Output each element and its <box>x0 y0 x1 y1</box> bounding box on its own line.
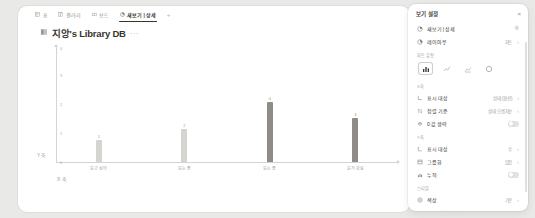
chart-type-area-button[interactable] <box>460 62 475 75</box>
bar-value-label: 3 <box>354 112 356 117</box>
view-tab-chart[interactable]: 새보기 | 상세 <box>119 7 157 22</box>
bar[interactable] <box>352 118 358 162</box>
chart-container: Y 축 X 축 0 1 2 3 4 1 읽고 싶어 2 <box>28 44 408 184</box>
view-settings-panel: 보기 설정 × 새보기 | 상세 레이아웃 차트 › <box>408 4 528 211</box>
book-icon <box>40 28 48 38</box>
section-label-x-axis: X축 <box>414 79 522 91</box>
chevron-right-icon: › <box>517 210 519 212</box>
chevron-right-icon: › <box>517 108 519 114</box>
board-icon <box>92 12 97 17</box>
chevron-right-icon: › <box>517 159 519 165</box>
close-icon[interactable]: × <box>517 11 521 17</box>
panel-row-label: 표시 대상 <box>427 145 504 152</box>
palette-icon <box>417 197 423 203</box>
section-label-chart-type: 차트 유형 <box>414 48 522 60</box>
view-tab-label: 새보기 | 상세 <box>127 11 155 18</box>
chart-type-line-button[interactable] <box>439 62 454 75</box>
group-icon <box>417 159 423 165</box>
chevron-right-icon: › <box>517 197 519 203</box>
x-axis-title: X 축 <box>57 175 66 182</box>
view-tab-bar: 표 갤러리 보드 새보기 | 상세 + <box>18 6 410 23</box>
bar-category-label: 읽고 싶어 <box>90 165 107 171</box>
x-axis-line <box>56 162 398 163</box>
panel-header: 보기 설정 × <box>408 4 528 22</box>
panel-row-label: 정렬 기준 <box>427 107 484 114</box>
chart-type-bar-button[interactable] <box>418 62 433 75</box>
panel-row-omit-zero[interactable]: 0 값 생략 <box>414 117 522 130</box>
document-card: 표 갤러리 보드 새보기 | 상세 + <box>18 6 410 212</box>
layout-icon <box>417 39 423 45</box>
view-tab-label: 표 <box>43 11 48 18</box>
view-tab-board[interactable]: 보드 <box>91 7 110 22</box>
bar[interactable] <box>96 140 102 162</box>
panel-row-label: 0 값 생략 <box>427 120 504 127</box>
bar-category-label: 읽기 완료 <box>347 165 364 171</box>
panel-row-y-display[interactable]: 표시 대상 수 › <box>414 142 522 155</box>
xaxis-icon <box>417 95 423 101</box>
bar-category-label: 읽는 중 <box>263 165 276 171</box>
bar-column[interactable]: 3 읽기 완료 <box>320 46 390 162</box>
brush-icon <box>417 210 423 212</box>
panel-scrollbar[interactable] <box>525 42 527 192</box>
chart-icon <box>120 12 125 17</box>
chart-bars: 1 읽고 싶어 2 읽는 중 4 읽는 중 <box>56 46 398 162</box>
panel-row-layout[interactable]: 레이아웃 차트 › <box>414 35 522 48</box>
view-tab-gallery[interactable]: 갤러리 <box>57 7 81 22</box>
view-tab-label: 갤러리 <box>66 11 81 18</box>
section-label-style: 스타일 <box>414 181 522 193</box>
bar-value-label: 4 <box>269 96 271 101</box>
panel-row-more-styling[interactable]: 스타일링 옵션 더 보기 › <box>414 206 522 211</box>
bar-value-label: 1 <box>98 134 100 139</box>
bar[interactable] <box>181 129 187 162</box>
chevron-right-icon: › <box>517 95 519 101</box>
stack-toggle[interactable] <box>508 172 519 178</box>
chart-type-donut-button[interactable] <box>481 62 496 75</box>
table-icon <box>35 12 40 17</box>
panel-row-label: 그룹화 <box>427 158 501 165</box>
chart-type-selector <box>414 60 522 79</box>
panel-row-value: 수 <box>508 146 512 152</box>
panel-row-value: 없음 <box>505 159 513 165</box>
panel-row-value: 상태 오름차순 <box>488 108 513 114</box>
omit-zero-toggle[interactable] <box>508 121 519 127</box>
y-axis-title: Y 축 <box>37 151 46 158</box>
screenshot-root: 표 갤러리 보드 새보기 | 상세 + <box>0 0 535 218</box>
bar-column[interactable]: 1 읽고 싶어 <box>64 46 134 162</box>
panel-row-x-sort[interactable]: 정렬 기준 상태 오름차순 › <box>414 104 522 117</box>
page-title: 지앙's Library DB <box>52 26 126 40</box>
bar-column[interactable]: 2 읽는 중 <box>149 46 219 162</box>
bar-column[interactable]: 4 읽는 중 <box>235 46 305 162</box>
bar[interactable] <box>267 102 273 162</box>
gallery-icon <box>58 12 63 17</box>
bar-value-label: 2 <box>183 123 185 128</box>
panel-title: 보기 설정 <box>416 10 438 18</box>
panel-row-value: 기본 <box>505 197 513 203</box>
view-tab-table[interactable]: 표 <box>34 7 48 22</box>
panel-row-x-display[interactable]: 표시 대상 상태 (옵션) › <box>414 91 522 104</box>
gear-icon[interactable] <box>514 25 520 32</box>
panel-body: 새보기 | 상세 레이아웃 차트 › 차트 유형 <box>408 22 528 211</box>
chart-icon <box>417 26 423 32</box>
bar-category-label: 읽는 중 <box>178 165 191 171</box>
panel-row-label: 색상 <box>427 196 501 203</box>
chart-plot-area: 0 1 2 3 4 1 읽고 싶어 2 읽는 중 <box>56 46 398 162</box>
yaxis-icon <box>417 146 423 152</box>
panel-row-current-view[interactable]: 새보기 | 상세 <box>414 22 522 35</box>
panel-row-label: 레이아웃 <box>427 38 501 45</box>
database-title-row: 지앙's Library DB ··· <box>40 26 139 40</box>
title-more-button[interactable]: ··· <box>130 29 140 38</box>
panel-row-stack[interactable]: 누적 <box>414 168 522 181</box>
stack-icon <box>417 172 423 178</box>
sort-icon <box>417 108 423 114</box>
panel-row-grouping[interactable]: 그룹화 없음 › <box>414 155 522 168</box>
omit-icon <box>417 121 423 127</box>
panel-row-label: 새보기 | 상세 <box>427 25 510 32</box>
section-label-y-axis: Y축 <box>414 130 522 142</box>
view-tab-label: 보드 <box>99 11 109 18</box>
chevron-right-icon: › <box>517 146 519 152</box>
panel-row-value: 차트 <box>505 39 513 45</box>
panel-row-label: 표시 대상 <box>427 94 489 101</box>
panel-row-color[interactable]: 색상 기본 › <box>414 193 522 206</box>
chevron-right-icon: › <box>517 39 519 45</box>
add-view-button[interactable]: + <box>166 12 171 18</box>
